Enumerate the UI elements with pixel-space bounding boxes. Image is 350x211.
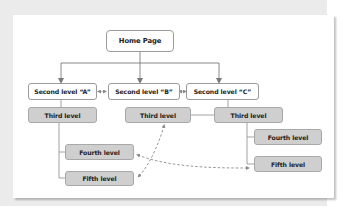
node-home-page: Home Page (106, 30, 174, 52)
node-third-level-b: Third level (125, 107, 191, 123)
connector-lines (0, 0, 350, 211)
node-second-level-c: Second level “C” (186, 83, 259, 100)
node-fourth-level-a: Fourth level (65, 144, 134, 160)
node-second-level-a: Second level “A” (28, 83, 97, 100)
node-second-level-b: Second level “B” (108, 83, 180, 100)
node-fifth-level-a: Fifth level (65, 171, 134, 186)
node-third-level-a: Third level (28, 107, 97, 123)
node-third-level-c: Third level (214, 107, 283, 123)
node-fifth-level-c: Fifth level (254, 156, 322, 172)
node-fourth-level-c: Fourth level (254, 129, 322, 145)
